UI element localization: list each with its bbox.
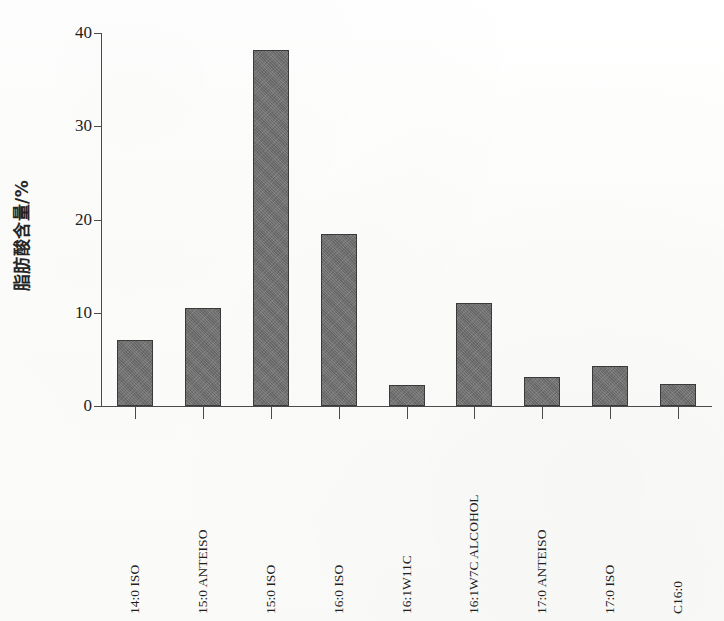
x-category-label-text: 15:0 ISO bbox=[263, 419, 279, 614]
y-axis-title: 脂肪酸含量/% bbox=[6, 140, 36, 330]
y-tick-label: 0 bbox=[52, 397, 92, 414]
bar bbox=[524, 377, 560, 406]
chart-figure: 脂肪酸含量/% 010203040 14:0 ISO15:0 ANTEISO15… bbox=[0, 0, 724, 621]
x-category-label: 17:0 ANTEISO bbox=[534, 419, 550, 614]
y-tick-mark bbox=[94, 33, 101, 34]
y-tick-mark bbox=[94, 220, 101, 221]
y-tick-label: 30 bbox=[52, 117, 92, 134]
x-category-label-text: 17:0 ANTEISO bbox=[534, 419, 550, 614]
x-category-label-text: C16:0 bbox=[670, 419, 686, 614]
x-tick-mark bbox=[135, 407, 136, 419]
x-category-label-text: 16:1W11C bbox=[399, 419, 415, 614]
x-tick-mark bbox=[542, 407, 543, 419]
y-tick-mark bbox=[94, 126, 101, 127]
y-tick-mark bbox=[94, 313, 101, 314]
x-category-label-text: 15:0 ANTEISO bbox=[195, 419, 211, 614]
y-tick-mark bbox=[94, 406, 101, 407]
y-tick-label: 40 bbox=[52, 24, 92, 41]
x-tick-mark bbox=[407, 407, 408, 419]
x-category-label: 15:0 ANTEISO bbox=[195, 419, 211, 614]
y-tick-label: 20 bbox=[52, 211, 92, 228]
x-category-label: 16:1W11C bbox=[399, 419, 415, 614]
x-category-label: 16:0 ISO bbox=[331, 419, 347, 614]
y-axis-line bbox=[101, 33, 102, 406]
x-axis-category-labels: 14:0 ISO15:0 ANTEISO15:0 ISO16:0 ISO16:1… bbox=[101, 419, 712, 619]
x-category-label: 17:0 ISO bbox=[602, 419, 618, 614]
bar bbox=[592, 366, 628, 406]
bar bbox=[456, 303, 492, 406]
plot-area: 010203040 bbox=[101, 33, 712, 406]
bar bbox=[321, 234, 357, 407]
bar bbox=[253, 50, 289, 406]
x-tick-mark bbox=[678, 407, 679, 419]
x-category-label-text: 14:0 ISO bbox=[127, 419, 143, 614]
bar bbox=[117, 340, 153, 406]
x-category-label-text: 16:1W7C ALCOHOL bbox=[466, 419, 482, 614]
x-tick-mark bbox=[203, 407, 204, 419]
x-category-label-text: 17:0 ISO bbox=[602, 419, 618, 614]
y-axis-title-text: 脂肪酸含量/% bbox=[9, 179, 34, 291]
x-tick-mark bbox=[271, 407, 272, 419]
bar bbox=[660, 384, 696, 406]
x-tick-mark bbox=[339, 407, 340, 419]
x-category-label: 16:1W7C ALCOHOL bbox=[466, 419, 482, 614]
bar bbox=[389, 385, 425, 406]
x-tick-mark bbox=[610, 407, 611, 419]
x-tick-mark bbox=[474, 407, 475, 419]
x-category-label: C16:0 bbox=[670, 419, 686, 614]
x-category-label: 14:0 ISO bbox=[127, 419, 143, 614]
y-tick-label: 10 bbox=[52, 304, 92, 321]
x-category-label: 15:0 ISO bbox=[263, 419, 279, 614]
x-category-label-text: 16:0 ISO bbox=[331, 419, 347, 614]
bar bbox=[185, 308, 221, 406]
